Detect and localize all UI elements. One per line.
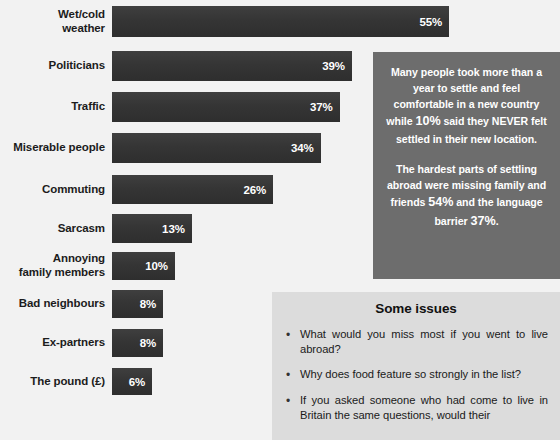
bar-the-pound[interactable]: 6%	[112, 368, 152, 395]
bar-category-label-line1: Traffic	[0, 100, 105, 114]
bar-value-label: 37%	[310, 101, 333, 113]
bar-category-label: Politicians	[0, 59, 112, 73]
bar-category-label-line1: Politicians	[0, 59, 105, 73]
bar-annoying-family-members[interactable]: 10%	[112, 252, 175, 280]
bar-value-label: 10%	[145, 260, 168, 272]
slide-canvas: Wet/cold weather 55% Politicians 39% Tra…	[0, 0, 560, 440]
callout-stat-10-percent: 10%	[415, 114, 440, 128]
bar-category-label: Traffic	[0, 100, 112, 114]
bar-value-label: 55%	[420, 16, 443, 28]
bar-category-label: The pound (£)	[0, 375, 112, 389]
callout-stat-54-percent: 54%	[428, 195, 453, 209]
bar-value-label: 34%	[291, 142, 314, 154]
bar-miserable-people[interactable]: 34%	[112, 133, 321, 163]
bar-category-label-line1: Sarcasm	[0, 222, 105, 236]
issue-question-1: What would you miss most if you went to …	[300, 327, 548, 357]
bar-category-label: Wet/cold weather	[0, 8, 112, 35]
callout-stat-37-percent: 37%	[471, 214, 496, 228]
callout-paragraph-hardest-parts: The hardest parts of settling abroad wer…	[382, 161, 551, 231]
bar-politicians[interactable]: 39%	[112, 51, 352, 81]
callout-paragraph-settling-time: Many people took more than a year to set…	[382, 64, 551, 148]
bar-category-label: Ex-partners	[0, 336, 112, 350]
bar-commuting[interactable]: 26%	[112, 175, 273, 204]
bullet-icon: •	[284, 327, 300, 343]
bar-value-label: 13%	[162, 223, 185, 235]
callout-text-part: .	[496, 215, 499, 227]
bar-category-label-line1: Annoying	[0, 252, 105, 266]
bar-ex-partners[interactable]: 8%	[112, 329, 163, 357]
list-item: • Why does food feature so strongly in t…	[284, 367, 548, 383]
bar-track: 55%	[112, 6, 470, 37]
bullet-icon: •	[284, 367, 300, 383]
some-issues-box: Some issues • What would you miss most i…	[272, 292, 560, 440]
bar-value-label: 6%	[129, 376, 145, 388]
bar-category-label-line2: weather	[0, 22, 105, 36]
bar-category-label-line1: Wet/cold	[0, 8, 105, 22]
bar-value-label: 8%	[140, 337, 156, 349]
bar-bad-neighbours[interactable]: 8%	[112, 290, 163, 318]
bar-value-label: 39%	[322, 60, 345, 72]
list-item: • If you asked someone who had come to l…	[284, 393, 548, 423]
some-issues-title: Some issues	[284, 301, 548, 316]
bar-category-label: Sarcasm	[0, 222, 112, 236]
bar-value-label: 8%	[140, 298, 156, 310]
bar-category-label-line1: Bad neighbours	[0, 297, 105, 311]
bar-category-label-line1: Miserable people	[0, 141, 105, 155]
statistics-callout-box: Many people took more than a year to set…	[373, 52, 560, 279]
bar-category-label-line2: family members	[0, 266, 105, 280]
bar-row: Wet/cold weather 55%	[0, 6, 470, 37]
bar-category-label: Commuting	[0, 183, 112, 197]
bar-category-label-line1: Ex-partners	[0, 336, 105, 350]
bar-wet-cold-weather[interactable]: 55%	[112, 6, 449, 37]
bar-category-label: Miserable people	[0, 141, 112, 155]
bar-category-label-line1: The pound (£)	[0, 375, 105, 389]
list-item: • What would you miss most if you went t…	[284, 327, 548, 357]
bullet-icon: •	[284, 393, 300, 409]
issue-question-3: If you asked someone who had come to liv…	[300, 393, 548, 423]
bar-traffic[interactable]: 37%	[112, 92, 340, 122]
bar-category-label: Annoying family members	[0, 252, 112, 279]
bar-category-label-line1: Commuting	[0, 183, 105, 197]
bar-category-label: Bad neighbours	[0, 297, 112, 311]
bar-value-label: 26%	[243, 184, 266, 196]
issue-question-2: Why does food feature so strongly in the…	[300, 367, 548, 382]
bar-sarcasm[interactable]: 13%	[112, 214, 192, 243]
